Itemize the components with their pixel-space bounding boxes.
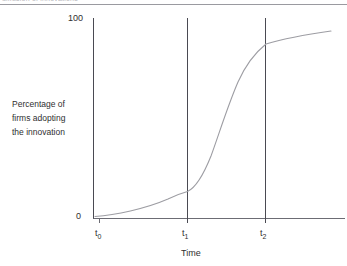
figure-caption-fragment: diffusion of innovations — [2, 0, 202, 3]
y-axis-label-line-2: firms adopting — [12, 111, 92, 125]
y-tick-label-0: 0 — [76, 211, 81, 221]
y-axis-label: Percentage of firms adopting the innovat… — [12, 97, 92, 139]
y-axis-label-line-3: the innovation — [12, 125, 92, 139]
y-tick-label-100: 100 — [68, 13, 83, 23]
adoption-curve-line — [95, 31, 331, 217]
x-tick-label-t2: t2 — [260, 228, 266, 240]
x-tick-label-t1: t1 — [182, 228, 188, 240]
x-axis-label: Time — [181, 248, 201, 258]
top-rule-divider — [0, 4, 347, 5]
x-tick-label-t0: t0 — [95, 228, 101, 240]
diffusion-s-curve-figure: diffusion of innovations Percentage of f… — [0, 0, 347, 266]
y-axis-label-line-1: Percentage of — [12, 97, 92, 111]
